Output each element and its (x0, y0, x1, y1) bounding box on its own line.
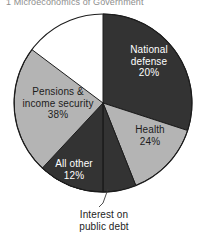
slice-label-health-line1: Health (135, 124, 165, 135)
slice-label-national-defense-line1: National (130, 44, 168, 55)
slice-callout-interest-line2: public debt (79, 221, 128, 232)
slice-label-all-other: All other 12% (42, 158, 106, 181)
pie-chart-figure: 1 Microeconomics of Government National … (0, 0, 206, 246)
slice-value-all-other: 12% (42, 170, 106, 182)
slice-callout-interest-on-public-debt: Interest on public debt (52, 209, 156, 233)
slice-label-pensions-line2: income security (23, 98, 94, 109)
slice-label-pensions-line1: Pensions & (32, 86, 84, 97)
slice-value-health: 24% (119, 136, 181, 148)
slice-label-pensions-income-security: Pensions & income security 38% (10, 86, 106, 121)
slice-label-national-defense: National defense 20% (113, 44, 185, 79)
slice-label-all-other-line1: All other (55, 158, 93, 169)
slice-callout-interest-line1: Interest on (80, 209, 128, 220)
slice-value-national-defense: 20% (113, 67, 185, 79)
slice-value-pensions-income-security: 38% (10, 109, 106, 121)
slice-label-national-defense-line2: defense (131, 56, 167, 67)
slice-label-health: Health 24% (119, 124, 181, 147)
